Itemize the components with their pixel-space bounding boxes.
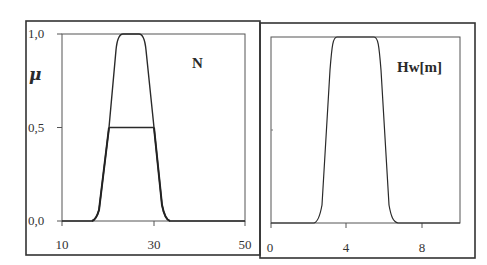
y-axis-mu-label: μ: [29, 64, 41, 84]
panel-n: 1,0 0,5 0,0 μ 10 30 50 N: [26, 21, 260, 255]
x-tick-label-10: 10: [56, 237, 69, 252]
membership-curve-n-lower: [92, 128, 170, 222]
x-tick-label-50: 50: [239, 237, 252, 252]
panel-hw: 0 4 8 Hw[m]: [260, 23, 475, 258]
y-tick-label-05: 0,5: [28, 120, 44, 135]
panel-n-title: N: [192, 55, 203, 71]
panel-hw-title: Hw[m]: [397, 59, 442, 75]
y-tick-label-0: 0,0: [28, 213, 44, 228]
membership-function-figure: 1,0 0,5 0,0 μ 10 30 50 N 0 4 8 Hw[m]: [0, 0, 487, 265]
hw-x-tick-label-8: 8: [419, 240, 426, 255]
hw-x-tick-label-4: 4: [343, 240, 350, 255]
hw-x-tick-label-0: 0: [267, 240, 274, 255]
y-tick-label-1: 1,0: [28, 26, 44, 41]
panel-n-frame: [26, 21, 260, 255]
x-tick-label-30: 30: [148, 237, 161, 252]
